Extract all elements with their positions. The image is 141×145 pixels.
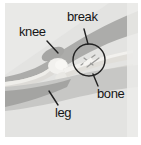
xray-photo: knee break bone leg — [5, 3, 138, 137]
label-leg: leg — [55, 106, 71, 119]
label-knee: knee — [19, 25, 46, 38]
right-edge-fade — [127, 3, 138, 137]
label-break: break — [67, 10, 98, 23]
figure-page: knee break bone leg — [0, 0, 141, 145]
label-bone: bone — [97, 87, 124, 100]
